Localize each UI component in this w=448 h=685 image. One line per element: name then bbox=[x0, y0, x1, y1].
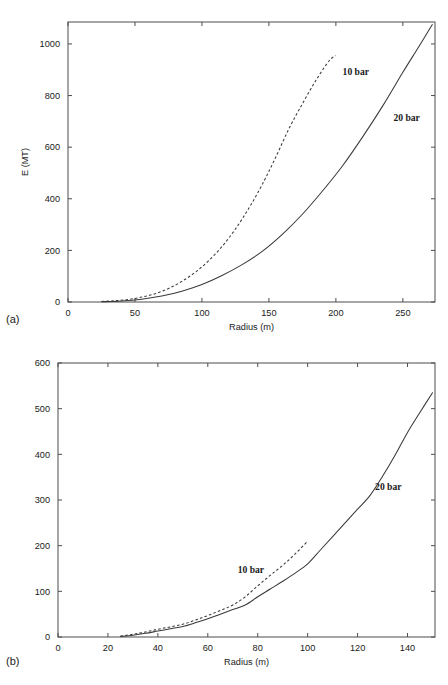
x-tick-label: 150 bbox=[261, 308, 276, 318]
series-curve-10-bar bbox=[101, 56, 335, 302]
y-axis-title: E (MT) bbox=[20, 148, 30, 176]
x-tick-label: 140 bbox=[400, 643, 415, 653]
series-curve-10-bar bbox=[120, 541, 307, 636]
x-tick-label: 200 bbox=[328, 308, 343, 318]
plot-frame bbox=[58, 363, 435, 637]
series-label-20-bar: 20 bar bbox=[375, 481, 402, 492]
y-tick-label: 600 bbox=[35, 358, 50, 368]
series-curve-20-bar bbox=[120, 393, 432, 637]
chart-panel-b: 0204060801001201400100200300400500600Rad… bbox=[0, 340, 448, 685]
x-tick-label: 0 bbox=[65, 308, 70, 318]
y-tick-label: 0 bbox=[45, 632, 50, 642]
x-axis-title: Radius (m) bbox=[229, 322, 274, 332]
y-tick-label: 500 bbox=[35, 404, 50, 414]
y-tick-label: 400 bbox=[45, 194, 60, 204]
y-tick-label: 1000 bbox=[40, 39, 60, 49]
series-curve-20-bar bbox=[101, 25, 432, 302]
x-tick-label: 60 bbox=[203, 643, 213, 653]
y-tick-label: 300 bbox=[35, 495, 50, 505]
series-label-10-bar: 10 bar bbox=[238, 564, 265, 575]
y-tick-label: 0 bbox=[55, 297, 60, 307]
y-tick-label: 200 bbox=[45, 246, 60, 256]
panel-a-tag: (a) bbox=[6, 313, 19, 325]
y-tick-label: 100 bbox=[35, 587, 50, 597]
chart-panel-a: 05010015020025002004006008001000Radius (… bbox=[0, 0, 448, 340]
y-tick-label: 400 bbox=[35, 450, 50, 460]
x-tick-label: 0 bbox=[55, 643, 60, 653]
plot-frame bbox=[68, 22, 435, 302]
panel-b-tag: (b) bbox=[6, 655, 19, 667]
chart-b-svg: 0204060801001201400100200300400500600Rad… bbox=[0, 340, 448, 685]
x-tick-label: 50 bbox=[130, 308, 140, 318]
x-tick-label: 100 bbox=[300, 643, 315, 653]
x-tick-label: 100 bbox=[194, 308, 209, 318]
x-tick-label: 120 bbox=[350, 643, 365, 653]
x-tick-label: 80 bbox=[253, 643, 263, 653]
series-label-20-bar: 20 bar bbox=[393, 112, 420, 123]
y-tick-label: 200 bbox=[35, 541, 50, 551]
chart-a-svg: 05010015020025002004006008001000Radius (… bbox=[0, 0, 448, 340]
y-tick-label: 800 bbox=[45, 91, 60, 101]
x-tick-label: 250 bbox=[395, 308, 410, 318]
x-tick-label: 40 bbox=[153, 643, 163, 653]
x-tick-label: 20 bbox=[103, 643, 113, 653]
series-label-10-bar: 10 bar bbox=[343, 66, 370, 77]
y-tick-label: 600 bbox=[45, 142, 60, 152]
x-axis-title: Radius (m) bbox=[224, 657, 269, 667]
figure-container: 05010015020025002004006008001000Radius (… bbox=[0, 0, 448, 685]
